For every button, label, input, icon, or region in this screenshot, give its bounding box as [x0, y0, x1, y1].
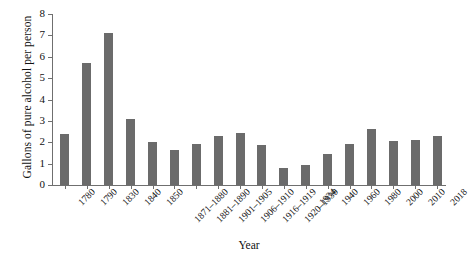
x-axis-tick-labels: 178017901830184018501871–18801881–189019…	[52, 186, 446, 242]
y-tick-label: 6	[40, 50, 46, 63]
bar	[301, 165, 310, 185]
y-tick-label: 5	[40, 71, 46, 84]
y-axis-title: Gallons of pure alcohol per person	[18, 2, 36, 192]
bar	[389, 141, 398, 185]
x-tick-label: 1850	[163, 186, 184, 207]
x-tick-label: 1840	[141, 186, 162, 207]
bar	[279, 168, 288, 185]
bar	[214, 136, 223, 185]
x-tick-label: 1780	[76, 186, 97, 207]
y-tick-label: 8	[40, 7, 46, 20]
bar	[192, 144, 201, 185]
x-tick-label: 2018	[448, 186, 469, 207]
x-tick-label: 2010	[426, 186, 447, 207]
bar	[411, 140, 420, 185]
bar	[126, 119, 135, 185]
y-tick-label: 2	[40, 135, 46, 148]
y-tick-label: 0	[40, 178, 46, 191]
x-tick-label: 1790	[97, 186, 118, 207]
bar	[60, 134, 69, 185]
bar	[148, 142, 157, 185]
y-tick-label: 7	[40, 28, 46, 41]
x-tick-label: 1960	[360, 186, 381, 207]
bar	[433, 136, 442, 185]
bar	[82, 63, 91, 185]
bar	[367, 129, 376, 185]
x-tick-label: 1980	[382, 186, 403, 207]
y-tick-label: 4	[40, 93, 46, 106]
plot-area: 012345678	[52, 14, 446, 185]
bar	[104, 33, 113, 185]
y-tick-label: 1	[40, 157, 46, 170]
bar	[170, 150, 179, 185]
bar	[257, 145, 266, 185]
bar	[236, 133, 245, 185]
x-tick-label: 1830	[119, 186, 140, 207]
bar	[345, 144, 354, 185]
x-axis-title: Year	[52, 238, 446, 252]
bar	[323, 154, 332, 185]
x-tick-label: 2000	[404, 186, 425, 207]
y-tick-label: 3	[40, 114, 46, 127]
bars-layer	[52, 14, 446, 185]
x-tick-label: 1940	[338, 186, 359, 207]
